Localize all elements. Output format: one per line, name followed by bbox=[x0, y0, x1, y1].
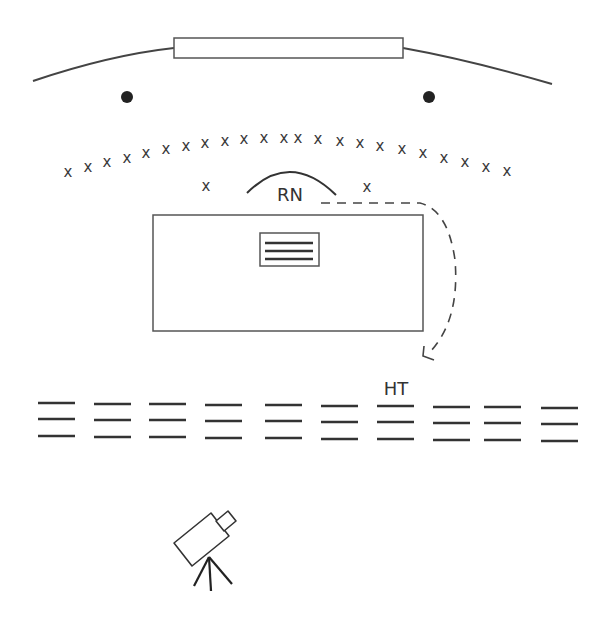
x-mark: x bbox=[240, 130, 249, 148]
x-mark: x bbox=[503, 162, 512, 180]
x-mark: x bbox=[202, 177, 211, 195]
seat-row-group bbox=[433, 407, 470, 440]
x-mark: x bbox=[461, 153, 470, 171]
ht-label: HT bbox=[384, 378, 410, 399]
x-mark: x bbox=[201, 134, 210, 152]
tripod-leg bbox=[209, 557, 232, 584]
tripod-leg bbox=[209, 557, 211, 591]
speaker-dot bbox=[423, 91, 435, 103]
seat-row-group bbox=[541, 408, 578, 441]
screen-wall bbox=[33, 38, 552, 84]
seat-row-group bbox=[484, 407, 521, 440]
movement-path bbox=[321, 203, 456, 360]
x-mark: x bbox=[440, 149, 449, 167]
seat-row-group bbox=[377, 406, 414, 439]
x-mark: x bbox=[356, 134, 365, 152]
x-mark: x bbox=[314, 130, 323, 148]
seat-row-group bbox=[265, 405, 302, 438]
x-mark: x bbox=[123, 149, 132, 167]
speaker-dot bbox=[121, 91, 133, 103]
rn-position: RN bbox=[247, 172, 336, 205]
x-mark: x bbox=[294, 129, 303, 147]
document-icon bbox=[260, 233, 319, 266]
x-mark: x bbox=[482, 158, 491, 176]
tripod-icon bbox=[194, 557, 232, 591]
wall-arc-left bbox=[33, 48, 174, 81]
x-mark: x bbox=[376, 137, 385, 155]
speaker-dots bbox=[121, 91, 435, 103]
seat-row-group bbox=[205, 405, 242, 438]
x-mark: x bbox=[260, 129, 269, 147]
stage-diagram: xxxxxxxxxxxxxxxxxxxxxxx xx RN HT bbox=[0, 0, 604, 632]
seat-rows: HT bbox=[38, 378, 578, 441]
x-mark: x bbox=[280, 129, 289, 147]
seat-row-group bbox=[321, 406, 358, 439]
x-mark: x bbox=[221, 132, 230, 150]
x-mark: x bbox=[336, 132, 345, 150]
seat-row-group bbox=[38, 403, 75, 436]
rn-label: RN bbox=[277, 184, 303, 205]
wall-arc-right bbox=[403, 48, 552, 84]
x-mark: x bbox=[363, 178, 372, 196]
x-mark: x bbox=[162, 140, 171, 158]
x-mark: x bbox=[103, 153, 112, 171]
audience-arc-marks: xxxxxxxxxxxxxxxxxxxxxxx bbox=[64, 129, 512, 181]
x-mark: x bbox=[182, 137, 191, 155]
seat-row-group bbox=[149, 404, 186, 437]
x-mark: x bbox=[64, 163, 73, 181]
dashed-movement-path bbox=[321, 203, 456, 352]
table bbox=[153, 215, 423, 331]
x-mark: x bbox=[84, 158, 93, 176]
x-mark: x bbox=[419, 144, 428, 162]
seat-row-group bbox=[94, 404, 131, 437]
x-mark: x bbox=[398, 140, 407, 158]
x-mark: x bbox=[142, 144, 151, 162]
projection-screen bbox=[174, 38, 403, 58]
camera-icon bbox=[174, 511, 236, 591]
arrowhead-icon bbox=[423, 346, 434, 360]
